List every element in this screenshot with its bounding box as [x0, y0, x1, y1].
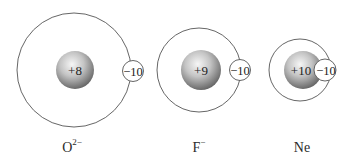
electron-charge: −10 [123, 65, 143, 79]
species-oxide-ion: +8 −10 O2− [17, 13, 144, 155]
species-label: Ne [294, 140, 310, 155]
electron-charge: −10 [230, 64, 250, 78]
nucleus-charge: +8 [68, 63, 82, 78]
species-neon-atom: +10 −10 Ne [269, 39, 336, 155]
nucleus-charge: +10 [291, 63, 311, 78]
species-fluoride-ion: +9 −10 F− [157, 28, 251, 155]
species-label: F− [193, 137, 206, 155]
nucleus-charge: +9 [194, 63, 208, 78]
electron-charge: −10 [316, 64, 336, 78]
species-label: O2− [62, 137, 82, 155]
isoelectronic-diagram: +8 −10 O2− +9 −10 F− +10 −10 Ne [0, 0, 356, 157]
